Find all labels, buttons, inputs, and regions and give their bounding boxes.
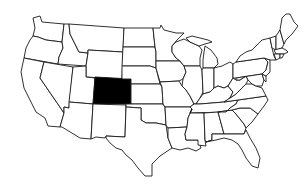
- us-map: United States map with Colorado highligh…: [0, 0, 306, 188]
- state-new-mexico: [91, 104, 126, 139]
- state-arizona: [60, 102, 93, 139]
- state-colorado: [93, 77, 131, 104]
- state-maine: [280, 14, 298, 44]
- state-florida: [206, 130, 260, 168]
- state-new-york: [236, 38, 276, 62]
- state-michigan: [203, 46, 218, 68]
- state-iowa: [156, 61, 186, 82]
- state-montana: [69, 24, 124, 53]
- us-map-svg: [0, 0, 306, 188]
- state-rhode-island: [280, 54, 284, 58]
- state-wyoming: [86, 50, 123, 79]
- state-kansas: [131, 84, 163, 104]
- state-south-dakota: [122, 47, 156, 68]
- state-north-dakota: [123, 28, 155, 47]
